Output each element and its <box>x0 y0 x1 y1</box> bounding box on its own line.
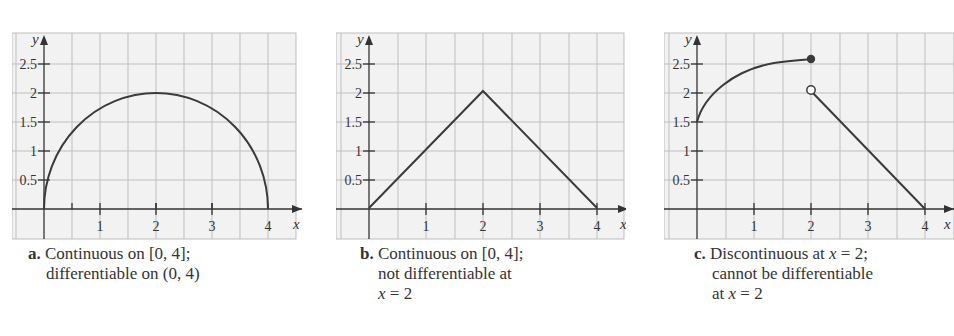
svg-text:1: 1 <box>355 144 362 159</box>
svg-text:3: 3 <box>865 219 872 234</box>
panel-b: x y 1 2 3 4 0.5 1 1.5 2 2.5 <box>336 0 626 244</box>
caption-a-line2: differentiable on (0, 4) <box>28 264 200 284</box>
svg-text:3: 3 <box>209 219 216 234</box>
svg-text:2: 2 <box>153 219 160 234</box>
svg-text:1: 1 <box>423 219 430 234</box>
svg-text:1: 1 <box>30 144 37 159</box>
svg-text:1.5: 1.5 <box>20 115 38 130</box>
open-dot-marker <box>807 86 815 94</box>
svg-text:2: 2 <box>808 219 815 234</box>
chart-a: x y 1 2 3 4 0.5 1 1.5 2 2.5 <box>12 0 302 240</box>
svg-text:1.5: 1.5 <box>673 115 691 130</box>
svg-text:2: 2 <box>355 86 362 101</box>
caption-b-line2: not differentiable at <box>360 264 523 284</box>
x-axis-label: x <box>292 216 300 232</box>
svg-text:2.5: 2.5 <box>345 57 363 72</box>
caption-c: c. Discontinuous at x = 2; cannot be dif… <box>694 244 873 304</box>
x-axis-arrow-icon <box>292 205 302 213</box>
caption-a-label: a. <box>28 244 41 263</box>
caption-b-line1: Continuous on [0, 4]; <box>378 244 523 263</box>
svg-text:1: 1 <box>97 219 104 234</box>
caption-c-line2: cannot be differentiable <box>694 264 873 284</box>
chart-b: x y 1 2 3 4 0.5 1 1.5 2 2.5 <box>336 0 626 240</box>
x-axis-label: x <box>943 216 951 232</box>
y-axis-label: y <box>683 31 692 47</box>
svg-text:0.5: 0.5 <box>345 173 363 188</box>
chart-c: x y 1 2 3 4 0.5 1 1.5 2 2.5 <box>664 0 954 240</box>
svg-text:1.5: 1.5 <box>345 115 363 130</box>
panel-c: x y 1 2 3 4 0.5 1 1.5 2 2.5 <box>664 0 954 244</box>
svg-text:2: 2 <box>480 219 487 234</box>
svg-text:0.5: 0.5 <box>673 173 691 188</box>
caption-c-line3: at x = 2 <box>694 284 873 304</box>
svg-text:4: 4 <box>594 219 601 234</box>
svg-text:4: 4 <box>922 219 929 234</box>
caption-a: a. Continuous on [0, 4]; differentiable … <box>28 244 200 284</box>
caption-c-label: c. <box>694 244 706 263</box>
caption-a-line1: Continuous on [0, 4]; <box>45 244 190 263</box>
svg-text:2: 2 <box>30 86 37 101</box>
y-axis-label: y <box>30 31 39 47</box>
y-axis-label: y <box>355 31 364 47</box>
svg-text:2.5: 2.5 <box>20 57 38 72</box>
svg-text:2: 2 <box>683 86 690 101</box>
svg-text:1: 1 <box>751 219 758 234</box>
caption-b: b. Continuous on [0, 4]; not differentia… <box>360 244 523 304</box>
panel-a: x y 1 2 3 4 0.5 1 1.5 2 2.5 <box>12 0 302 244</box>
svg-text:0.5: 0.5 <box>20 173 38 188</box>
caption-b-line3: x = 2 <box>360 284 523 304</box>
svg-text:1: 1 <box>683 144 690 159</box>
svg-text:3: 3 <box>537 219 544 234</box>
svg-text:2.5: 2.5 <box>673 57 691 72</box>
x-axis-label: x <box>619 216 626 232</box>
caption-c-line1: Discontinuous at x = 2; <box>710 244 868 263</box>
svg-text:4: 4 <box>265 219 272 234</box>
caption-b-label: b. <box>360 244 374 263</box>
closed-dot-marker <box>807 55 815 63</box>
